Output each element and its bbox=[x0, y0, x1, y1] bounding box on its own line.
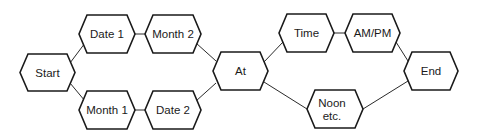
edge-start-to-date1 bbox=[70, 43, 85, 63]
edge-date2-to-at bbox=[196, 83, 216, 101]
node-date2: Date 2 bbox=[145, 91, 201, 129]
node-label: etc. bbox=[323, 110, 342, 122]
node-end: End bbox=[404, 52, 458, 90]
node-label: Date 1 bbox=[90, 28, 124, 40]
node-label: End bbox=[421, 65, 441, 77]
state-diagram: StartDate 1Month 2Month 1Date 2AtTimeAM/… bbox=[0, 0, 480, 136]
node-label: AM/PM bbox=[354, 27, 392, 39]
node-label: Time bbox=[294, 27, 319, 39]
edge-ampm-to-end bbox=[396, 42, 408, 61]
node-label: Month 2 bbox=[152, 28, 194, 40]
edge-at-to-time bbox=[264, 42, 283, 62]
node-start: Start bbox=[20, 54, 75, 91]
node-label: Noon bbox=[318, 97, 346, 109]
edge-noon-to-end bbox=[363, 81, 408, 109]
node-month1: Month 1 bbox=[79, 91, 135, 129]
edge-at-to-noon bbox=[264, 82, 307, 109]
edge-start-to-month1 bbox=[70, 83, 85, 101]
node-date1: Date 1 bbox=[79, 15, 135, 53]
node-label: Date 2 bbox=[156, 104, 190, 116]
node-time: Time bbox=[279, 14, 334, 52]
node-noon: Noonetc. bbox=[307, 90, 363, 128]
node-at: At bbox=[213, 52, 268, 90]
nodes-layer: StartDate 1Month 2Month 1Date 2AtTimeAM/… bbox=[20, 14, 458, 129]
node-label: Month 1 bbox=[86, 104, 128, 116]
node-month2: Month 2 bbox=[145, 15, 201, 53]
node-label: At bbox=[235, 65, 247, 77]
edge-month2-to-at bbox=[196, 43, 216, 61]
node-label: Start bbox=[35, 67, 60, 79]
node-ampm: AM/PM bbox=[345, 14, 400, 52]
